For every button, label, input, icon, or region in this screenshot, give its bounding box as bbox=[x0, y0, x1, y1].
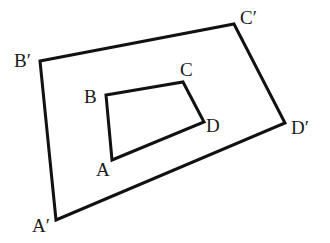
vertex-label-d-prime: D′ bbox=[291, 117, 309, 138]
vertex-label-b-prime: B′ bbox=[14, 50, 31, 71]
inner-quadrilateral bbox=[106, 82, 204, 160]
vertex-label-c: C bbox=[180, 59, 193, 80]
quadrilaterals-figure: A′ B′ C′ D′ A B C D bbox=[0, 0, 330, 243]
outer-quadrilateral bbox=[40, 24, 285, 220]
diagram-canvas: A′ B′ C′ D′ A B C D bbox=[0, 0, 330, 243]
vertex-label-c-prime: C′ bbox=[240, 7, 257, 28]
vertex-label-b: B bbox=[84, 86, 97, 107]
vertex-label-a: A bbox=[96, 159, 110, 180]
vertex-label-d: D bbox=[206, 115, 220, 136]
vertex-label-a-prime: A′ bbox=[32, 215, 50, 236]
